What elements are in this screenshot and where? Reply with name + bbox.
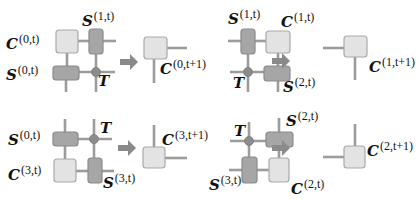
tensor-label: C(0,t) bbox=[6, 33, 39, 52]
corner-tensor-c0 bbox=[56, 30, 78, 53]
ctmrg-diagram: C(0,t)S(1,t)S(0,t)TC(0,t+1)S(1,t)C(1,t)T… bbox=[0, 0, 420, 199]
tensor-label: S(3,t) bbox=[103, 172, 135, 191]
corner-tensor-c2 bbox=[269, 158, 289, 182]
edge-tensor-s3-br bbox=[242, 157, 257, 183]
tensor-label: T bbox=[233, 76, 244, 91]
tensor-label: S(3,t) bbox=[209, 174, 241, 193]
tensor-label-base: C bbox=[291, 180, 303, 198]
tensor-label-base: S bbox=[228, 10, 239, 28]
corner-tensor-c2-new bbox=[344, 146, 365, 168]
tensor-label-superscript: (2,t) bbox=[295, 75, 315, 89]
tensor-label-base: C bbox=[6, 35, 18, 53]
tensor-label-base: C bbox=[8, 166, 20, 184]
tensor-label-base: C bbox=[367, 142, 379, 160]
corner-tensor-c0-new bbox=[144, 37, 167, 59]
tensor-label-superscript: (1,t) bbox=[240, 7, 260, 21]
tensor-label-base: S bbox=[82, 12, 93, 30]
tensor-label-base: T bbox=[234, 122, 245, 140]
tensor-label-superscript: (1,t+1) bbox=[382, 55, 415, 69]
edge-tensor-s1-tr bbox=[241, 29, 255, 54]
tensor-label-base: S bbox=[283, 78, 294, 96]
corner-tensor-c3-new bbox=[143, 147, 165, 168]
tensor-label-base: S bbox=[209, 176, 220, 194]
arrow-right-icon bbox=[118, 140, 136, 156]
tensor-label-base: C bbox=[162, 131, 174, 149]
tensor-label: S(1,t) bbox=[82, 10, 114, 29]
tensor-label: C(2,t) bbox=[291, 178, 324, 197]
tensor-label: S(2,t) bbox=[286, 110, 318, 129]
tensor-label: S(1,t) bbox=[228, 8, 260, 27]
corner-tensor-c1-new bbox=[344, 36, 367, 57]
corner-tensor-c3 bbox=[54, 159, 76, 182]
edge-tensors bbox=[53, 29, 293, 183]
tensor-label: C(1,t) bbox=[281, 11, 314, 30]
tensor-label: C(2,t+1) bbox=[367, 140, 413, 159]
arrow-right-icon bbox=[120, 54, 138, 70]
tensor-label-superscript: (2,t) bbox=[298, 109, 318, 123]
tensor-label: C(3,t+1) bbox=[162, 129, 208, 148]
tensor-label-superscript: (3,t) bbox=[115, 171, 135, 185]
tensor-label-base: S bbox=[286, 112, 297, 130]
edge-tensor-s3-bl bbox=[88, 158, 102, 183]
site-tensor-t-bl bbox=[90, 135, 99, 144]
tensor-label: S(0,t) bbox=[6, 64, 38, 83]
site-tensor-t-tr bbox=[244, 68, 253, 77]
tensor-label-base: C bbox=[369, 58, 381, 76]
tensor-label-superscript: (0,t) bbox=[20, 128, 40, 142]
tensor-label-base: C bbox=[160, 60, 172, 78]
tensor-label-superscript: (0,t) bbox=[19, 32, 39, 46]
tensor-label-superscript: (1,t) bbox=[94, 9, 114, 23]
tensor-label: S(0,t) bbox=[8, 129, 40, 148]
tensor-label: S(2,t) bbox=[283, 76, 315, 95]
edge-tensor-s0-tl bbox=[53, 66, 79, 80]
tensor-label-superscript: (0,t+1) bbox=[173, 57, 206, 71]
tensor-label-superscript: (3,t+1) bbox=[175, 128, 208, 142]
tensor-label-base: T bbox=[100, 119, 111, 137]
bonds bbox=[65, 41, 355, 171]
tensor-label-base: S bbox=[6, 66, 17, 84]
tensor-label-superscript: (1,t) bbox=[294, 10, 314, 24]
tensor-label-superscript: (2,t) bbox=[304, 177, 324, 191]
tensor-label: C(1,t+1) bbox=[369, 56, 415, 75]
tensor-label: C(0,t+1) bbox=[160, 58, 206, 77]
tensor-label: T bbox=[98, 74, 109, 89]
tensor-label-base: T bbox=[233, 74, 244, 92]
tensor-label: C(3,t) bbox=[8, 164, 41, 183]
tensor-label: T bbox=[234, 124, 245, 139]
edge-tensor-s0-bl bbox=[53, 132, 78, 146]
tensor-label-base: S bbox=[8, 131, 19, 149]
edge-tensor-s1-tl bbox=[89, 29, 103, 54]
diagram-graphics bbox=[0, 0, 420, 199]
site-tensor-t-br bbox=[245, 137, 254, 146]
corner-tensor-c1 bbox=[266, 31, 290, 53]
edge-tensor-s2-br bbox=[266, 132, 293, 147]
tensor-label-base: T bbox=[98, 72, 109, 90]
tensor-label: T bbox=[100, 121, 111, 136]
tensor-label-superscript: (2,t+1) bbox=[380, 139, 413, 153]
tensor-label-base: S bbox=[103, 174, 114, 192]
tensor-label-superscript: (0,t) bbox=[18, 63, 38, 77]
tensor-label-superscript: (3,t) bbox=[221, 173, 241, 187]
tensor-label-superscript: (3,t) bbox=[21, 163, 41, 177]
tensor-label-base: C bbox=[281, 13, 293, 31]
